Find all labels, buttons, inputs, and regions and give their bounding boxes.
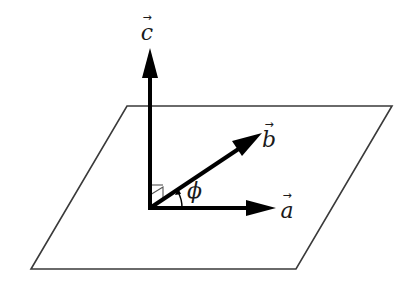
vector-c [142, 48, 158, 210]
vector-diagram [0, 0, 418, 296]
plane-parallelogram [31, 106, 392, 269]
vector-a [148, 200, 276, 216]
vector-c-arrowhead [142, 48, 158, 78]
label-a: → a [278, 192, 296, 222]
label-c: → c [137, 14, 157, 44]
vector-b [150, 133, 262, 208]
label-phi: ϕ [187, 180, 202, 202]
vector-a-arrowhead [246, 200, 276, 216]
label-b: → b [260, 121, 278, 151]
